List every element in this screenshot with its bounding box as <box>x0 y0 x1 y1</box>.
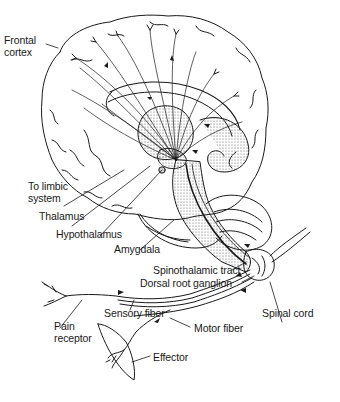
label-amygdala: Amygdala <box>114 243 160 255</box>
label-to-limbic-system: To limbic system <box>28 180 68 204</box>
pain-pathway-diagram: Frontal cortex To limbic system Thalamus… <box>0 0 340 402</box>
effector-muscle <box>98 324 135 380</box>
label-hypothalamus: Hypothalamus <box>56 228 122 240</box>
label-motor-fiber: Motor fiber <box>194 322 243 334</box>
label-spinothalamic-tract: Spinothalamic tract <box>153 264 240 276</box>
pain-receptor-ending <box>42 282 66 306</box>
label-frontal-cortex: Frontal cortex <box>4 34 36 58</box>
label-thalamus: Thalamus <box>39 210 84 222</box>
label-sensory-fiber: Sensory fiber <box>104 307 165 319</box>
label-effector: Effector <box>153 351 188 363</box>
label-dorsal-root-ganglion: Dorsal root ganglion <box>140 277 232 289</box>
label-spinal-cord: Spinal cord <box>262 307 313 319</box>
label-pain-receptor: Pain receptor <box>54 320 92 344</box>
